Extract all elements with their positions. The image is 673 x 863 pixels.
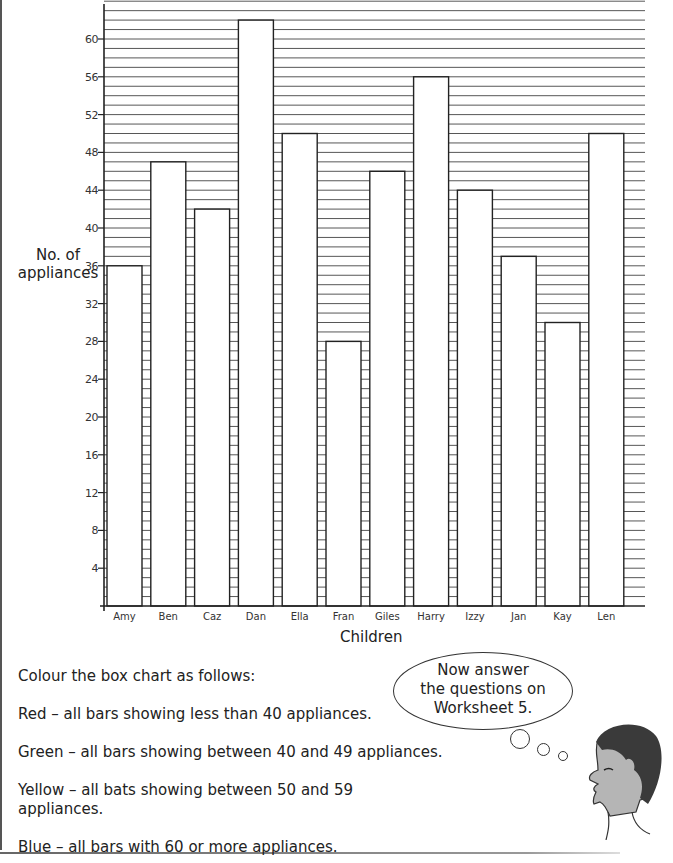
- x-tick-label: Len: [597, 611, 615, 622]
- bar-jan: [501, 256, 536, 606]
- speech-bubble: Now answer the questions on Worksheet 5.: [393, 652, 573, 730]
- instruction-yellow-line2: appliances.: [18, 800, 353, 819]
- x-tick-label: Jan: [510, 611, 526, 622]
- y-tick-label: 32: [85, 298, 98, 311]
- y-tick-label: 20: [85, 411, 98, 424]
- x-tick-label: Ella: [291, 611, 309, 622]
- x-axis-labels: AmyBenCazDanEllaFranGilesHarryIzzyJanKay…: [113, 611, 615, 622]
- y-tick-label: 56: [85, 71, 98, 84]
- y-axis-ticks: 4812162024283236404448525660: [85, 33, 104, 575]
- y-tick-label: 60: [85, 33, 98, 46]
- thought-circle-large-icon: [510, 729, 530, 749]
- bar-izzy: [457, 190, 492, 606]
- y-tick-label: 4: [92, 562, 99, 575]
- x-tick-label: Dan: [246, 611, 266, 622]
- y-tick-label: 44: [85, 184, 98, 197]
- bar-len: [589, 134, 624, 607]
- y-tick-label: 48: [85, 146, 98, 159]
- instruction-blue: Blue – all bars with 60 or more applianc…: [18, 838, 338, 857]
- x-axis-label: Children: [340, 628, 402, 646]
- instructions-intro: Colour the box chart as follows:: [18, 667, 255, 686]
- bar-caz: [195, 209, 230, 606]
- x-tick-label: Kay: [553, 611, 572, 622]
- instruction-red: Red – all bars showing less than 40 appl…: [18, 705, 372, 724]
- bar-kay: [545, 323, 580, 607]
- x-tick-label: Ben: [159, 611, 178, 622]
- bar-ben: [151, 162, 186, 606]
- y-tick-label: 40: [85, 222, 98, 235]
- bar-chart: 4812162024283236404448525660 AmyBenCazDa…: [0, 0, 673, 640]
- y-tick-label: 8: [92, 524, 99, 537]
- x-tick-label: Giles: [375, 611, 400, 622]
- y-axis-label: No. of appliances: [8, 246, 108, 282]
- bar-amy: [107, 266, 142, 606]
- bar-dan: [238, 20, 273, 606]
- x-tick-label: Amy: [113, 611, 136, 622]
- instruction-green: Green – all bars showing between 40 and …: [18, 743, 443, 762]
- y-axis-label-line1: No. of: [8, 246, 108, 264]
- x-tick-label: Izzy: [465, 611, 484, 622]
- speech-bubble-line1: Now answer: [394, 661, 572, 680]
- y-tick-label: 16: [85, 449, 98, 462]
- thought-circle-medium-icon: [537, 743, 550, 756]
- bar-ella: [282, 134, 317, 607]
- y-tick-label: 24: [85, 373, 98, 386]
- bar-fran: [326, 341, 361, 606]
- x-tick-label: Caz: [203, 611, 221, 622]
- speech-bubble-line3: Worksheet 5.: [394, 699, 572, 718]
- thought-circle-small-icon: [558, 751, 568, 761]
- y-tick-label: 28: [85, 335, 98, 348]
- boy-thinking-icon: [570, 720, 665, 840]
- bar-harry: [414, 77, 449, 606]
- x-tick-label: Fran: [333, 611, 355, 622]
- instruction-yellow-line1: Yellow – all bats showing between 50 and…: [18, 781, 353, 800]
- speech-bubble-line2: the questions on: [394, 680, 572, 699]
- y-axis-label-line2: appliances: [8, 264, 108, 282]
- y-tick-label: 12: [85, 487, 98, 500]
- bar-giles: [370, 171, 405, 606]
- y-tick-label: 52: [85, 109, 98, 122]
- instruction-yellow: Yellow – all bats showing between 50 and…: [18, 781, 353, 819]
- x-tick-label: Harry: [417, 611, 445, 622]
